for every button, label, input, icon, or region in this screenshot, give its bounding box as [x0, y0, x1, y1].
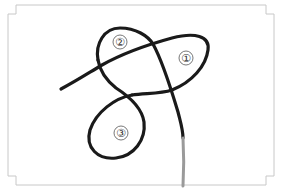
- label-loop-2: ②: [113, 35, 127, 49]
- svg-text:③: ③: [116, 127, 126, 140]
- rope-segment-loop3: [89, 60, 144, 158]
- label-loop-3: ③: [114, 126, 128, 140]
- label-loop-1: ①: [179, 51, 193, 65]
- svg-text:①: ①: [181, 52, 191, 65]
- rope-tail: [183, 138, 184, 186]
- svg-text:②: ②: [115, 36, 125, 49]
- knot-diagram: ① ② ③: [0, 0, 282, 190]
